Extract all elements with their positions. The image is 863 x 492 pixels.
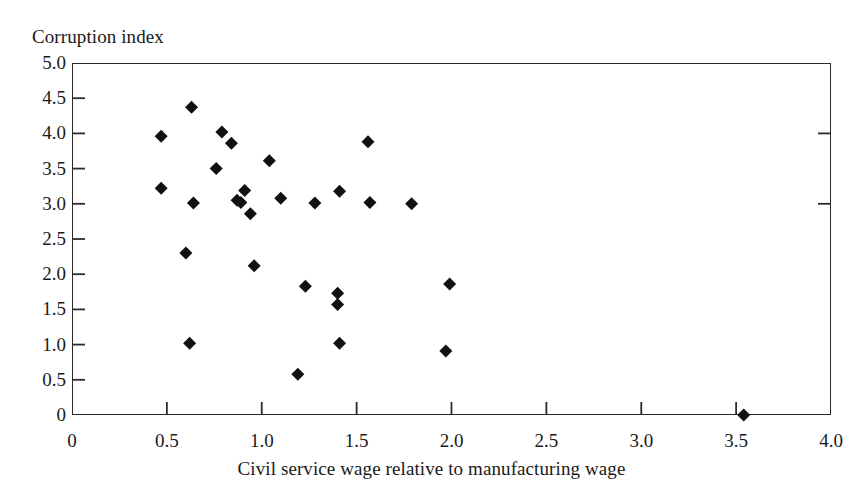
x-tick-label: 3.0 xyxy=(606,431,676,450)
y-tick-label: 1.5 xyxy=(10,299,66,318)
x-tick-label: 1.5 xyxy=(322,431,392,450)
x-tick-label: 1.0 xyxy=(227,431,297,450)
y-tick-label: 4.0 xyxy=(10,123,66,142)
y-tick-label: 0.5 xyxy=(10,370,66,389)
y-tick-label: 2.0 xyxy=(10,264,66,283)
x-tick-label: 4.0 xyxy=(796,431,863,450)
y-tick-label: 1.0 xyxy=(10,335,66,354)
y-tick-label: 4.5 xyxy=(10,88,66,107)
y-tick-label: 0 xyxy=(10,405,66,424)
y-tick-label: 2.5 xyxy=(10,229,66,248)
y-tick-label: 3.5 xyxy=(10,159,66,178)
y-tick-label: 3.0 xyxy=(10,194,66,213)
x-tick-label: 0.5 xyxy=(132,431,202,450)
figure-container: Corruption index 00.51.01.52.02.53.03.54… xyxy=(0,0,863,492)
x-tick-label: 2.5 xyxy=(511,431,581,450)
x-tick-label: 0 xyxy=(37,431,107,450)
y-axis-title: Corruption index xyxy=(32,26,164,48)
x-tick-label: 3.5 xyxy=(701,431,771,450)
x-tick-label: 2.0 xyxy=(417,431,487,450)
y-tick-label: 5.0 xyxy=(10,53,66,72)
x-axis-title: Civil service wage relative to manufactu… xyxy=(0,458,863,480)
plot-area xyxy=(72,63,831,415)
